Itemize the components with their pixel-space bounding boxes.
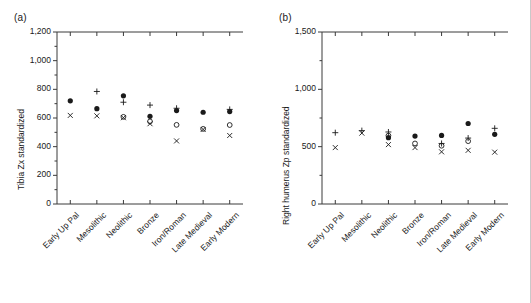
data-point-filled-circle — [439, 133, 444, 138]
panel-b-ytick-label: 1,000 — [271, 83, 316, 93]
data-point-cross — [333, 145, 338, 150]
data-point-filled-circle — [121, 93, 126, 98]
data-point-filled-circle — [94, 106, 99, 111]
data-point-open-circle — [174, 122, 179, 127]
data-point-filled-circle — [201, 110, 206, 115]
panel-a-ytick-label: 600 — [6, 112, 51, 122]
panel-b: (b) Right humerus Zp standardized 05001,… — [265, 0, 531, 303]
panel-a: (a) Tibia Zx standardized 02004006008001… — [0, 0, 266, 303]
panel-a-ytick-label: 0 — [6, 198, 51, 208]
panel-a-ytick-label: 800 — [6, 83, 51, 93]
data-point-cross — [492, 150, 497, 155]
data-point-open-circle — [121, 114, 126, 119]
data-point-plus — [147, 102, 153, 108]
data-point-cross — [148, 121, 153, 126]
data-point-cross — [227, 133, 232, 138]
figure-container: (a) Tibia Zx standardized 02004006008001… — [0, 0, 531, 303]
data-point-plus — [120, 99, 126, 105]
data-point-open-circle — [413, 141, 418, 146]
panel-b-ytick-label: 500 — [271, 141, 316, 151]
panel-a-ytick-label: 400 — [6, 141, 51, 151]
data-point-filled-circle — [147, 114, 152, 119]
data-point-cross — [466, 148, 471, 153]
panel-b-ytick-label: 1,500 — [271, 26, 316, 36]
data-point-filled-circle — [412, 134, 417, 139]
data-point-cross — [386, 142, 391, 147]
data-point-plus — [332, 130, 338, 136]
data-point-filled-circle — [68, 98, 73, 103]
data-point-open-circle — [227, 123, 232, 128]
panel-b-ytick-label: 0 — [271, 198, 316, 208]
panel-a-ytick-label: 1,000 — [6, 55, 51, 65]
data-point-cross — [94, 113, 99, 118]
data-point-filled-circle — [492, 132, 497, 137]
panel-a-ytick-label: 1,200 — [6, 26, 51, 36]
data-point-cross — [439, 149, 444, 154]
data-point-cross — [68, 113, 73, 118]
data-point-filled-circle — [466, 121, 471, 126]
panel-a-ytick-label: 200 — [6, 169, 51, 179]
data-point-cross — [174, 138, 179, 143]
data-point-plus — [492, 125, 498, 131]
data-point-plus — [94, 88, 100, 94]
